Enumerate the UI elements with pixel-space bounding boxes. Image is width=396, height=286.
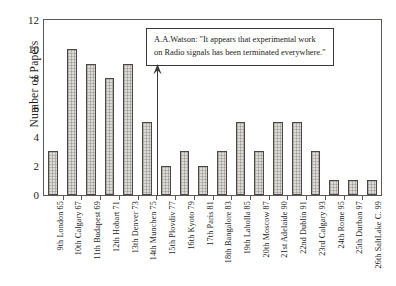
bar (105, 78, 115, 195)
x-tick-mark (213, 196, 214, 200)
annotation-callout: A.A.Watson: "It appears that experimenta… (146, 28, 334, 66)
x-tick-label: 20th Moscow 87 (263, 201, 271, 286)
bar (161, 166, 171, 195)
x-tick-mark (175, 196, 176, 200)
x-tick-label: 16th Kyoto 79 (188, 201, 196, 286)
x-tick-label: 21st Adelaide 90 (281, 201, 289, 286)
bar (142, 122, 152, 195)
y-tick-label: 8 (9, 73, 39, 84)
x-tick-label: 13th Denver 73 (132, 201, 140, 286)
x-tick-label: 22nd Dublin 91 (300, 201, 308, 286)
x-tick-label: 9th London 65 (57, 201, 65, 286)
x-tick-mark (81, 196, 82, 200)
y-tick-label: 12 (9, 15, 39, 26)
x-tick-label: 24th Rome 95 (338, 201, 346, 286)
x-tick-label: 11th Budapest 69 (94, 201, 102, 286)
x-tick-label: 17th Paris 81 (207, 201, 215, 286)
bar (329, 180, 339, 195)
bar (311, 151, 321, 195)
x-tick-mark (231, 196, 232, 200)
x-tick-mark (100, 196, 101, 200)
x-tick-mark (156, 196, 157, 200)
x-tick-mark (63, 196, 64, 200)
bar (67, 49, 77, 195)
bar (254, 151, 264, 195)
x-tick-mark (194, 196, 195, 200)
x-tick-label: 12th Hobart 71 (113, 201, 121, 286)
y-tick-label: 6 (9, 102, 39, 113)
bar (367, 180, 377, 195)
bar (48, 151, 58, 195)
annotation-arrow-shaft (157, 66, 158, 196)
x-tick-mark (287, 196, 288, 200)
x-tick-label: 26th SaltLake C. 99 (375, 201, 383, 286)
x-tick-label: 25th Durban 97 (356, 201, 364, 286)
y-tick-label: 2 (9, 160, 39, 171)
bar (217, 151, 227, 195)
y-tick-label: 4 (9, 131, 39, 142)
bar (348, 180, 358, 195)
x-tick-mark (119, 196, 120, 200)
x-tick-label: 23rd Calgary 93 (319, 201, 327, 286)
bar (292, 122, 302, 195)
x-tick-mark (362, 196, 363, 200)
bar (273, 122, 283, 195)
annotation-arrow-head-icon (153, 64, 162, 75)
annotation-line-1: A.A.Watson: "It appears that experimenta… (154, 35, 316, 44)
x-tick-label: 14th Munchen 75 (150, 201, 158, 286)
x-tick-mark (269, 196, 270, 200)
x-tick-mark (325, 196, 326, 200)
x-tick-label: 15th Plovdiv 77 (169, 201, 177, 286)
bar (236, 122, 246, 195)
x-tick-mark (138, 196, 139, 200)
bar (123, 64, 133, 195)
y-tick-label: 0 (9, 190, 39, 201)
x-tick-label: 19th Laholla 85 (244, 201, 252, 286)
bar (86, 64, 96, 195)
x-tick-label: 18th Bangalore 83 (225, 201, 233, 286)
bar-chart: Number of Papers 024681012 9th London 65… (0, 0, 396, 286)
bar (180, 151, 190, 195)
y-tick-label: 10 (9, 44, 39, 55)
bar (198, 166, 208, 195)
x-tick-mark (306, 196, 307, 200)
x-tick-mark (344, 196, 345, 200)
x-tick-label: 10th Calgary 67 (75, 201, 83, 286)
x-tick-mark (250, 196, 251, 200)
annotation-line-2: on Radio signals has been terminated eve… (154, 47, 327, 60)
